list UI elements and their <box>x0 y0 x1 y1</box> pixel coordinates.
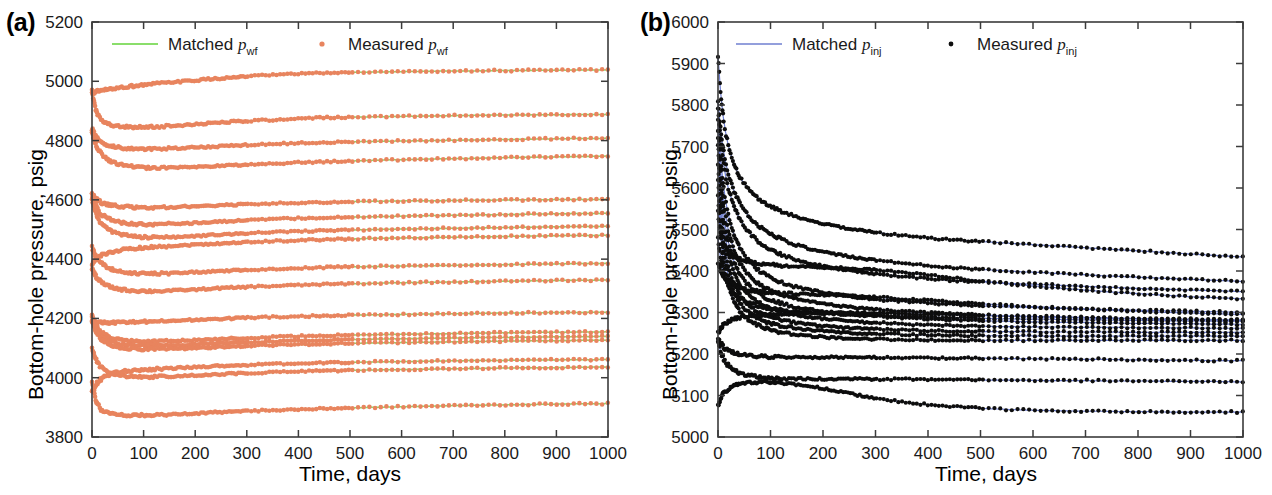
measured-point <box>594 210 599 215</box>
measured-point <box>1194 295 1198 299</box>
measured-point <box>458 69 463 74</box>
measured-point <box>878 268 882 272</box>
measured-point <box>464 331 469 336</box>
measured-point <box>373 406 378 411</box>
measured-point <box>732 204 736 208</box>
measured-point <box>532 211 537 216</box>
measured-point <box>1200 334 1204 338</box>
measured-point <box>384 115 389 120</box>
measured-point <box>1091 379 1095 383</box>
measured-point <box>384 214 389 219</box>
measured-point <box>970 405 974 409</box>
measured-point <box>885 311 889 315</box>
measured-point <box>1062 286 1066 290</box>
measured-point <box>1218 296 1222 300</box>
measured-point <box>955 324 959 328</box>
measured-point <box>955 238 959 242</box>
measured-point <box>430 157 435 162</box>
measured-point <box>1223 278 1227 282</box>
measured-point <box>915 271 919 275</box>
measured-point <box>1166 318 1170 322</box>
measured-point <box>554 339 559 344</box>
measured-point <box>367 214 372 219</box>
measured-point <box>452 226 457 231</box>
measured-point <box>966 239 970 243</box>
measured-point <box>987 406 991 410</box>
measured-point <box>549 233 554 238</box>
measured-point <box>973 279 977 283</box>
measured-point <box>1096 317 1100 321</box>
measured-point <box>435 336 440 341</box>
measured-point <box>1108 274 1112 278</box>
measured-point <box>929 333 933 337</box>
measured-point <box>882 356 886 360</box>
measured-point <box>900 327 904 331</box>
measured-point <box>900 377 904 381</box>
measured-point <box>723 243 727 247</box>
measured-point <box>1194 326 1198 330</box>
measured-point <box>526 261 531 266</box>
measured-point <box>594 155 599 160</box>
measured-point <box>981 329 985 333</box>
measured-point <box>1194 251 1198 255</box>
measured-point <box>889 399 893 403</box>
x-tick-label: 800 <box>491 444 519 463</box>
measured-point <box>583 402 588 407</box>
measured-point <box>998 406 1002 410</box>
measured-point <box>407 404 412 409</box>
measured-point <box>594 112 599 117</box>
measured-point <box>1050 272 1054 276</box>
measured-point <box>966 339 970 343</box>
measured-point <box>907 298 911 302</box>
measured-point <box>452 366 457 371</box>
legend-measured-swatch <box>949 42 954 47</box>
measured-point <box>1004 378 1008 382</box>
measured-point <box>566 279 571 284</box>
measured-point <box>1177 330 1181 334</box>
measured-point <box>469 226 474 231</box>
measured-point <box>481 113 486 118</box>
measured-point <box>1171 358 1175 362</box>
measured-point <box>882 259 886 263</box>
measured-point <box>390 214 395 219</box>
measured-point <box>356 139 361 144</box>
measured-point <box>424 279 429 284</box>
measured-point <box>1125 290 1129 294</box>
measured-point <box>435 280 440 285</box>
measured-point <box>948 276 952 280</box>
measured-point <box>1096 274 1100 278</box>
measured-point <box>1177 318 1181 322</box>
measured-point <box>904 261 908 265</box>
measured-point <box>735 267 739 271</box>
measured-point <box>1200 252 1204 256</box>
measured-point <box>1010 408 1014 412</box>
measured-point <box>1056 357 1060 361</box>
measured-point <box>430 366 435 371</box>
measured-point <box>992 268 996 272</box>
measured-point <box>955 404 959 408</box>
measured-point <box>959 319 963 323</box>
measured-point <box>1039 285 1043 289</box>
measured-point <box>447 69 452 74</box>
measured-point <box>885 331 889 335</box>
measured-point <box>1171 379 1175 383</box>
measured-point <box>361 265 366 270</box>
measured-point <box>1229 327 1233 331</box>
measured-point <box>726 173 730 177</box>
measured-point <box>464 157 469 162</box>
measured-point <box>1102 289 1106 293</box>
x-tick-label: 200 <box>181 444 209 463</box>
measured-point <box>503 334 508 339</box>
measured-point <box>503 311 508 316</box>
measured-point <box>1148 338 1152 342</box>
measured-point <box>889 378 893 382</box>
measured-point <box>1183 288 1187 292</box>
measured-point <box>1102 247 1106 251</box>
measured-point <box>1160 379 1164 383</box>
measured-point <box>373 340 378 345</box>
measured-point <box>1033 285 1037 289</box>
measured-point <box>1206 253 1210 257</box>
measured-point <box>929 337 933 341</box>
measured-point <box>452 198 457 203</box>
measured-point <box>475 403 480 408</box>
